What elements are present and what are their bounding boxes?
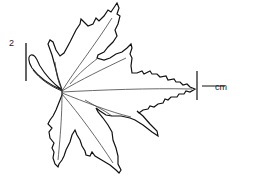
leaf-outline — [48, 3, 195, 173]
leaf-figure: 2 cm — [0, 0, 255, 185]
leaf-drawing — [0, 0, 255, 185]
scale-label-2: 2 — [9, 39, 14, 48]
leaf-veins — [55, 18, 192, 163]
scale-label-cm: cm — [215, 83, 227, 92]
